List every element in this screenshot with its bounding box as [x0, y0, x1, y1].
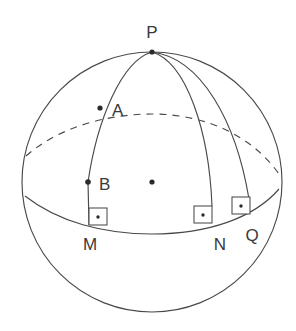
label-n: N — [214, 235, 226, 254]
sphere-diagram: P A B M N Q — [0, 0, 296, 331]
point-dot-p — [149, 49, 154, 54]
meridian-arc-pn — [152, 52, 212, 206]
label-a: A — [112, 101, 124, 120]
label-q: Q — [245, 226, 258, 245]
point-dot-center — [149, 179, 154, 184]
point-dot-a — [97, 105, 102, 110]
geometry-figure-container: P A B M N Q — [0, 0, 296, 331]
right-angle-marker-q — [232, 197, 250, 214]
right-angle-marker-m — [89, 208, 107, 225]
point-dot-b — [85, 179, 91, 185]
label-b: B — [99, 175, 110, 194]
label-p: P — [146, 23, 157, 42]
label-m: M — [83, 235, 97, 254]
equator-dashed-arc — [26, 114, 279, 174]
right-angle-marker-n — [194, 206, 212, 223]
